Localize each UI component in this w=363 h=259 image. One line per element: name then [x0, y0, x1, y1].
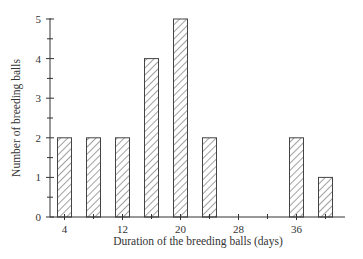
bar: [174, 19, 188, 217]
bar: [116, 138, 130, 217]
x-tick-label: 28: [233, 223, 245, 235]
y-tick-label: 3: [36, 92, 42, 104]
y-tick-label: 2: [36, 132, 42, 144]
bar: [290, 138, 304, 217]
bar: [87, 138, 101, 217]
bar: [319, 177, 333, 217]
y-tick-label: 4: [36, 53, 42, 65]
x-tick-label: 36: [291, 223, 303, 235]
x-tick-label: 12: [117, 223, 128, 235]
x-axis-label: Duration of the breeding balls (days): [113, 235, 283, 248]
x-tick-label: 20: [175, 223, 187, 235]
bar: [145, 59, 159, 217]
bar: [58, 138, 72, 217]
y-tick-label: 0: [36, 211, 42, 223]
y-tick-label: 5: [36, 13, 42, 25]
y-tick-label: 1: [36, 171, 42, 183]
y-axis-label: Number of breeding balls: [10, 59, 23, 177]
bar: [203, 138, 217, 217]
bars-group: [58, 19, 333, 217]
x-tick-label: 4: [62, 223, 68, 235]
bar-chart: 012345412202836 Duration of the breeding…: [0, 0, 363, 259]
